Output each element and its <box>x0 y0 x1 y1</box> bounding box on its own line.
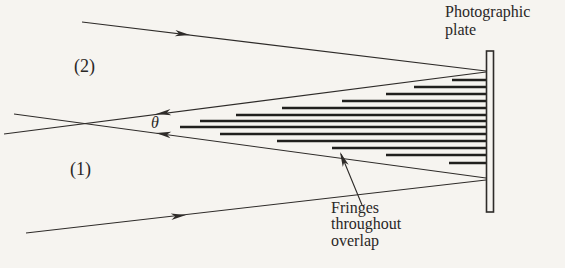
diagram-canvas <box>0 0 565 268</box>
photographic-plate-label: Photographic plate <box>445 3 530 38</box>
theta-angle-label: θ <box>151 114 159 131</box>
beam1-lower-edge <box>26 180 486 233</box>
fringes-caption: Fringes throughout overlap <box>331 200 401 249</box>
two-beam-interference-diagram: Photographic plate (2) (1) θ Fringes thr… <box>0 0 565 268</box>
beam1-label: (1) <box>70 160 91 179</box>
beam2-label: (2) <box>74 57 95 76</box>
beam1-upper-edge <box>4 72 486 134</box>
photographic-plate <box>487 51 494 212</box>
beam2-upper-edge <box>82 22 486 71</box>
